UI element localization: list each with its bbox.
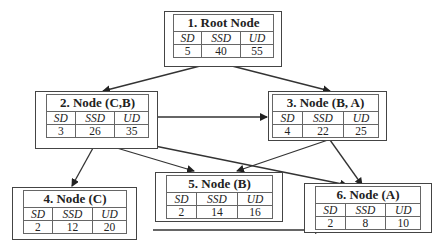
col-sd: SD bbox=[167, 193, 197, 206]
col-sd: SD bbox=[47, 112, 76, 125]
node-title: 5. Node (B) bbox=[167, 176, 273, 193]
val-ssd: 14 bbox=[196, 206, 237, 219]
node-title: 4. Node (C) bbox=[24, 191, 127, 208]
col-ssd: SSD bbox=[345, 204, 386, 217]
val-ud: 35 bbox=[115, 125, 149, 138]
col-sd: SD bbox=[273, 112, 303, 125]
node-5-b: 5. Node (B) SD SSD UD 2 14 16 bbox=[155, 172, 283, 222]
node-root: 1. Root Node SD SSD UD 5 40 55 bbox=[164, 11, 282, 67]
node-title: 6. Node (A) bbox=[316, 187, 421, 204]
node-title: 1. Root Node bbox=[174, 15, 274, 32]
edge-3-5 bbox=[237, 140, 328, 171]
col-ud: UD bbox=[344, 112, 379, 125]
val-sd: 2 bbox=[316, 217, 346, 230]
val-ssd: 22 bbox=[302, 125, 343, 138]
val-ssd: 12 bbox=[52, 221, 92, 234]
col-ud: UD bbox=[93, 208, 127, 221]
val-ssd: 26 bbox=[75, 125, 115, 138]
col-ud: UD bbox=[241, 32, 274, 45]
col-ssd: SSD bbox=[202, 32, 241, 45]
node-3-ba: 3. Node (B, A) SD SSD UD 4 22 25 bbox=[268, 91, 387, 141]
edge-2-4 bbox=[72, 148, 93, 186]
val-ud: 25 bbox=[344, 125, 379, 138]
node-2-cb: 2. Node (C,B) SD SSD UD 3 26 35 bbox=[35, 91, 158, 149]
col-ud: UD bbox=[115, 112, 149, 125]
val-ud: 55 bbox=[241, 45, 274, 58]
node-4-c: 4. Node (C) SD SSD UD 2 12 20 bbox=[12, 187, 137, 240]
val-ud: 10 bbox=[386, 217, 421, 230]
col-sd: SD bbox=[24, 208, 53, 221]
col-sd: SD bbox=[316, 204, 346, 217]
val-ud: 20 bbox=[93, 221, 127, 234]
edge-1-3 bbox=[232, 66, 330, 91]
node-title: 3. Node (B, A) bbox=[273, 95, 379, 112]
val-ud: 16 bbox=[238, 206, 273, 219]
col-ssd: SSD bbox=[196, 193, 237, 206]
col-ssd: SSD bbox=[75, 112, 115, 125]
col-ud: UD bbox=[238, 193, 273, 206]
col-ssd: SSD bbox=[52, 208, 92, 221]
val-sd: 2 bbox=[24, 221, 53, 234]
val-ssd: 40 bbox=[202, 45, 241, 58]
col-ssd: SSD bbox=[302, 112, 343, 125]
col-ud: UD bbox=[386, 204, 421, 217]
val-sd: 3 bbox=[47, 125, 76, 138]
val-sd: 2 bbox=[167, 206, 197, 219]
val-sd: 4 bbox=[273, 125, 303, 138]
val-sd: 5 bbox=[174, 45, 202, 58]
edge-1-2 bbox=[103, 66, 200, 91]
node-title: 2. Node (C,B) bbox=[47, 95, 149, 112]
val-ssd: 8 bbox=[345, 217, 386, 230]
col-sd: SD bbox=[174, 32, 202, 45]
edge-3-6 bbox=[330, 140, 362, 185]
node-6-a: 6. Node (A) SD SSD UD 2 8 10 bbox=[304, 183, 432, 233]
